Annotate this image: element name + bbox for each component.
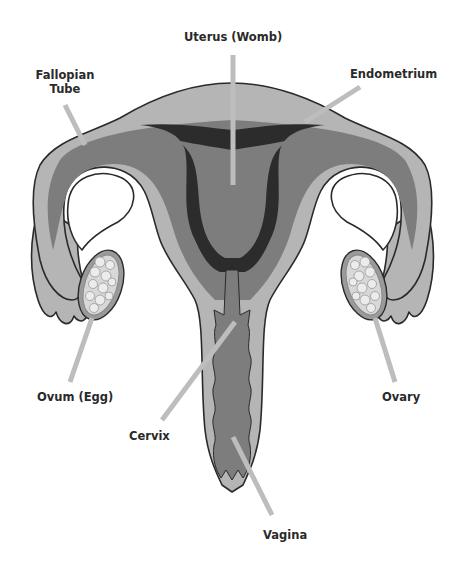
label-uterus: Uterus (Womb)	[184, 30, 282, 44]
label-vagina: Vagina	[263, 528, 307, 542]
label-ovum: Ovum (Egg)	[37, 390, 113, 404]
label-fallopian-line1: Fallopian	[32, 68, 98, 82]
label-ovary: Ovary	[382, 390, 420, 404]
leader-ovary	[375, 318, 395, 382]
leader-ovum	[70, 318, 92, 382]
label-cervix: Cervix	[129, 429, 170, 443]
label-fallopian-tube: Fallopian Tube	[32, 68, 98, 96]
label-fallopian-line2: Tube	[32, 82, 98, 96]
label-endometrium: Endometrium	[350, 67, 437, 81]
left-inner-gap	[68, 174, 134, 250]
right-inner-gap	[331, 174, 397, 250]
